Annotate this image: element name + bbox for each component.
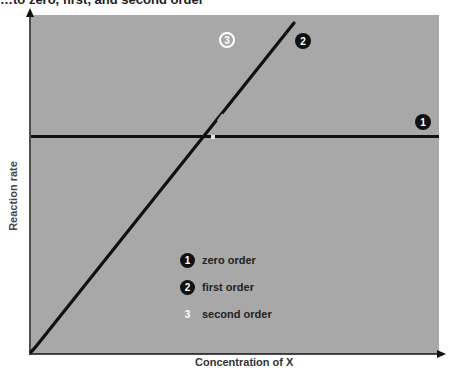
legend-item-first-order: 2 first order — [180, 279, 272, 295]
legend-label: zero order — [202, 254, 256, 266]
legend-badge-3: 3 — [180, 307, 195, 322]
legend-item-zero-order: 1 zero order — [180, 252, 272, 268]
legend-item-second-order: 3 second order — [180, 306, 272, 322]
series-marker-2: 2 — [295, 33, 311, 49]
legend-badge-2: 2 — [180, 280, 195, 295]
second-order-crossing-mark — [211, 135, 215, 139]
x-axis-label: Concentration of X — [195, 356, 293, 368]
legend-label: first order — [202, 281, 254, 293]
y-axis-arrow-icon — [26, 8, 34, 17]
x-axis-arrow-icon — [437, 350, 446, 358]
legend-badge-1: 1 — [180, 253, 195, 268]
legend-label: second order — [202, 308, 272, 320]
series-marker-3: 3 — [219, 32, 235, 48]
y-axis-label: Reaction rate — [7, 136, 19, 256]
legend: 1 zero order 2 first order 3 second orde… — [180, 252, 272, 333]
series-marker-1: 1 — [415, 114, 431, 130]
